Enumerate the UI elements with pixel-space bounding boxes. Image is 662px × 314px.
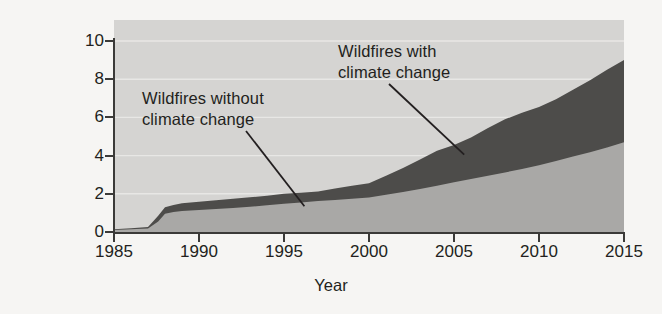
x-tick-label: 1995 xyxy=(254,243,314,260)
x-tick-mark xyxy=(198,233,200,242)
x-tick-label: 1985 xyxy=(84,243,144,260)
annotation-with-line-1: Wildfires with xyxy=(338,41,450,62)
y-axis-line xyxy=(113,38,115,234)
x-axis-title: Year xyxy=(0,276,662,295)
y-tick-label: 2 xyxy=(76,185,104,202)
y-tick-label: 10 xyxy=(76,32,104,49)
annotation-without-line-2: climate change xyxy=(142,109,264,130)
y-tick-mark xyxy=(105,116,114,118)
x-tick-mark xyxy=(623,233,625,242)
x-tick-label: 1990 xyxy=(169,243,229,260)
x-tick-label: 2015 xyxy=(594,243,654,260)
x-tick-mark xyxy=(283,233,285,242)
x-tick-label: 2010 xyxy=(509,243,569,260)
y-tick-mark xyxy=(105,40,114,42)
x-tick-label-group: 1985199019952000200520102015 xyxy=(0,243,662,269)
annotation-without-line-1: Wildfires without xyxy=(142,88,264,109)
annotation-wildfires-with-climate-change: Wildfires with climate change xyxy=(338,41,450,83)
chart-figure: Cumulative forest area burned (millions … xyxy=(0,0,662,314)
annotation-wildfires-without-climate-change: Wildfires without climate change xyxy=(142,88,264,130)
x-tick-label: 2005 xyxy=(424,243,484,260)
annotation-with-line-2: climate change xyxy=(338,62,450,83)
y-tick-label: 0 xyxy=(76,223,104,240)
y-tick-label: 8 xyxy=(76,70,104,87)
y-tick-mark xyxy=(105,193,114,195)
x-tick-label: 2000 xyxy=(339,243,399,260)
x-tick-mark xyxy=(538,233,540,242)
y-tick-mark xyxy=(105,155,114,157)
x-tick-mark xyxy=(368,233,370,242)
y-tick-mark xyxy=(105,78,114,80)
x-tick-mark xyxy=(113,233,115,242)
x-tick-mark xyxy=(453,233,455,242)
y-tick-label: 6 xyxy=(76,108,104,125)
y-tick-label: 4 xyxy=(76,147,104,164)
